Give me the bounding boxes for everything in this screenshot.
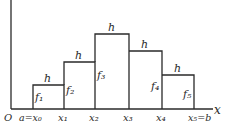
height-label-f3: f₃: [96, 69, 105, 82]
height-label-f5: f₅: [182, 88, 192, 101]
tick-label-x1: x₁: [58, 112, 68, 123]
step-function-diagram: h h h h h f₁ f₂ f₃ f₄ f₅ O x a=x₀ x₁ x₂ …: [0, 0, 228, 132]
height-label-f2: f₂: [65, 84, 74, 97]
width-label-5: h: [174, 62, 181, 75]
width-label-2: h: [75, 49, 82, 62]
width-label-4: h: [141, 38, 148, 51]
tick-label-x0: a=x₀: [19, 112, 42, 123]
height-label-f4: f₄: [150, 80, 159, 93]
origin-label: O: [4, 112, 12, 123]
tick-label-x2: x₂: [89, 112, 99, 123]
tick-label-x3: x₃: [123, 112, 133, 123]
width-label-3: h: [108, 21, 115, 34]
tick-label-x5: x₅=b: [188, 112, 211, 123]
width-label-1: h: [44, 72, 51, 85]
tick-label-x4: x₄: [156, 112, 166, 123]
x-axis-label: x: [214, 103, 221, 117]
height-label-f1: f₁: [34, 91, 43, 104]
